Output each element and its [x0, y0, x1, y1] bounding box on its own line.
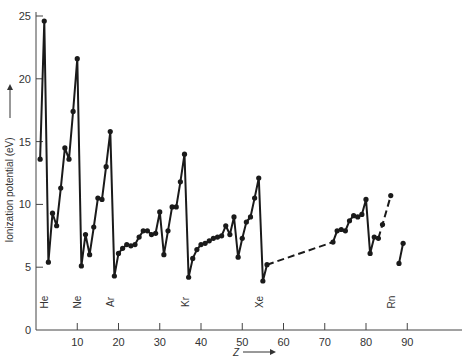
data-point — [368, 251, 373, 256]
y-tick-label: 0 — [25, 324, 31, 336]
data-point — [256, 175, 261, 180]
y-tick-label: 10 — [19, 198, 31, 210]
y-axis-title: Ionization potential (eV) — [4, 84, 15, 243]
element-labels: HeNeArKrXeRn — [39, 295, 397, 308]
data-point — [157, 209, 162, 214]
data-point — [186, 275, 191, 280]
data-point — [132, 242, 137, 247]
x-tick-label: 70 — [319, 336, 331, 348]
data-point — [194, 247, 199, 252]
data-point — [363, 197, 368, 202]
noble-gas-label-ne: Ne — [72, 295, 83, 308]
data-point — [260, 278, 265, 283]
x-tick-label: 20 — [112, 336, 124, 348]
svg-text:He: He — [39, 295, 50, 308]
x-tick-label: 60 — [277, 336, 289, 348]
data-point — [116, 251, 121, 256]
data-point — [79, 263, 84, 268]
noble-gas-label-kr: Kr — [180, 296, 191, 307]
data-point — [62, 145, 67, 150]
data-point — [66, 157, 71, 162]
data-point — [359, 212, 364, 217]
data-point — [54, 223, 59, 228]
data-point — [244, 219, 249, 224]
svg-text:Ar: Ar — [105, 296, 116, 307]
data-point — [120, 246, 125, 251]
x-axis-title: Z — [232, 347, 276, 358]
data-point — [401, 241, 406, 246]
svg-text:Kr: Kr — [180, 296, 191, 307]
svg-text:Xe: Xe — [254, 295, 265, 308]
data-series — [38, 18, 406, 283]
series-line — [40, 21, 267, 281]
data-point — [190, 256, 195, 261]
data-point — [252, 196, 257, 201]
noble-gas-label-rn: Rn — [386, 296, 397, 309]
noble-gas-label-he: He — [39, 295, 50, 308]
data-point — [376, 236, 381, 241]
svg-text:Ionization potential (eV): Ionization potential (eV) — [4, 137, 15, 242]
data-point — [380, 222, 385, 227]
data-point — [83, 232, 88, 237]
data-point — [219, 233, 224, 238]
noble-gas-label-xe: Xe — [254, 295, 265, 308]
x-tick-label: 80 — [360, 336, 372, 348]
data-point — [99, 197, 104, 202]
data-point — [388, 193, 393, 198]
data-point — [42, 18, 47, 23]
data-point — [75, 56, 80, 61]
x-tick-label: 10 — [71, 336, 83, 348]
data-point — [240, 236, 245, 241]
noble-gas-label-ar: Ar — [105, 296, 116, 307]
data-point — [264, 262, 269, 267]
data-point — [223, 223, 228, 228]
y-tick-label: 15 — [19, 136, 31, 148]
data-point — [91, 224, 96, 229]
series-line — [378, 196, 390, 239]
data-point — [165, 228, 170, 233]
data-point — [46, 260, 51, 265]
data-point — [396, 261, 401, 266]
data-point — [347, 218, 352, 223]
data-point — [58, 185, 63, 190]
data-point — [161, 252, 166, 257]
data-point — [343, 228, 348, 233]
y-tick-label: 20 — [19, 73, 31, 85]
data-point — [112, 273, 117, 278]
data-point — [227, 232, 232, 237]
data-point — [178, 179, 183, 184]
data-point — [104, 164, 109, 169]
svg-text:Z: Z — [232, 347, 240, 358]
x-tick-label: 40 — [195, 336, 207, 348]
y-tick-label: 25 — [19, 10, 31, 22]
data-point — [153, 231, 158, 236]
data-point — [231, 214, 236, 219]
svg-text:Ne: Ne — [72, 295, 83, 308]
series-line — [333, 199, 378, 253]
data-point — [137, 234, 142, 239]
data-point — [174, 204, 179, 209]
data-point — [38, 157, 43, 162]
y-tick-label: 5 — [25, 261, 31, 273]
series-line — [399, 243, 403, 263]
x-tick-label: 30 — [154, 336, 166, 348]
svg-text:Rn: Rn — [386, 296, 397, 309]
data-point — [108, 129, 113, 134]
data-point — [182, 152, 187, 157]
series-line — [267, 242, 333, 265]
data-point — [87, 252, 92, 257]
ionization-chart: 0510152025102030405060708090ZIonization … — [0, 0, 466, 363]
x-tick-label: 90 — [401, 336, 413, 348]
data-point — [248, 214, 253, 219]
data-point — [145, 228, 150, 233]
data-point — [236, 255, 241, 260]
data-point — [50, 211, 55, 216]
data-point — [330, 239, 335, 244]
data-point — [71, 109, 76, 114]
